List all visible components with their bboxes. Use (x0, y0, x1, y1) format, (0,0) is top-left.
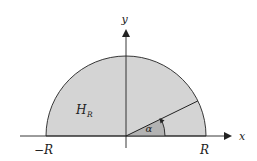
pos-radius-label: R (199, 143, 209, 157)
angle-label: α (146, 123, 153, 134)
y-axis-arrow-icon (122, 29, 130, 37)
region-label-subscript: R (86, 110, 93, 119)
half-disk-diagram: y x H R −R R α (0, 0, 257, 161)
neg-radius-label: −R (34, 143, 53, 157)
x-axis-label: x (239, 130, 246, 143)
region-label: H (75, 103, 87, 117)
diagram-canvas: y x H R −R R α (0, 0, 257, 161)
y-axis-label: y (121, 13, 129, 26)
x-axis-arrow-icon (224, 132, 232, 140)
